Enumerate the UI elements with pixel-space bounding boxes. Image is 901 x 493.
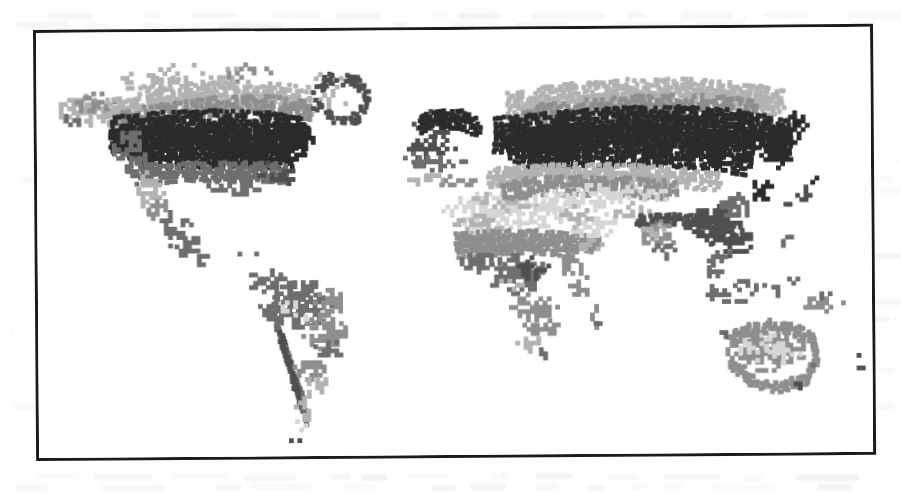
- world-map-svg: [36, 27, 873, 458]
- madagascar-east: [594, 321, 603, 326]
- java: [722, 299, 748, 304]
- australia-southeast: [811, 363, 816, 368]
- korea: [783, 202, 792, 207]
- world-map-plot: [36, 27, 873, 458]
- scanned-page: [0, 0, 901, 493]
- figure-frame: [33, 24, 876, 461]
